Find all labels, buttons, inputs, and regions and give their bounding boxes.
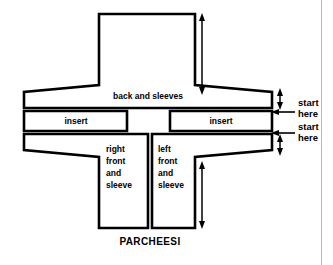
label-left-front-and-sleeve-line-1: left: [158, 144, 171, 154]
label-right-front-and-sleeve-line-2: front: [106, 156, 126, 166]
leader-start-here-upper: [271, 109, 295, 115]
annotation-start-here-upper-line-2: here: [298, 108, 318, 119]
label-insert-right: insert: [209, 116, 232, 126]
direction-arrow-left-front: [199, 161, 205, 229]
label-right-front-and-sleeve-line-4: sleeve: [106, 180, 132, 190]
direction-arrow-back: [199, 13, 205, 95]
diagram-title: PARCHEESI: [119, 236, 180, 247]
annotation-start-here-upper: start here: [298, 97, 319, 119]
label-back-and-sleeves: back and sleeves: [113, 91, 183, 101]
label-left-front-and-sleeve-line-2: front: [158, 156, 178, 166]
schematic-page: back and sleeves insert insert right fro…: [0, 0, 333, 265]
leader-start-here-lower: [271, 130, 295, 136]
label-right-front-and-sleeve-line-1: right: [106, 144, 125, 154]
label-right-front-and-sleeve-line-3: and: [106, 168, 121, 178]
annotation-start-here-lower-line-1: start: [298, 121, 319, 132]
annotation-start-here-upper-line-1: start: [298, 97, 319, 108]
label-left-front-and-sleeve-line-3: and: [158, 168, 173, 178]
label-insert-left: insert: [64, 116, 87, 126]
direction-arrow-front-right-edge: [277, 134, 283, 156]
garment-schematic-svg: back and sleeves insert insert right fro…: [0, 0, 333, 265]
direction-arrow-back-right-edge: [277, 88, 283, 110]
annotation-start-here-lower: start here: [298, 121, 319, 143]
label-left-front-and-sleeve-line-4: sleeve: [158, 180, 184, 190]
annotation-start-here-lower-line-2: here: [298, 132, 318, 143]
